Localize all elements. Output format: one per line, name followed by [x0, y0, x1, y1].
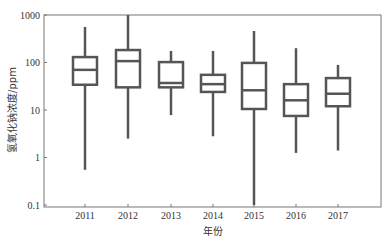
box-2015 — [242, 31, 266, 205]
box-series — [73, 15, 350, 205]
x-tick-label: 2014 — [203, 210, 223, 221]
box-2014 — [201, 51, 225, 136]
x-axis-title: 年份 — [203, 225, 223, 237]
x-tick-label: 2013 — [161, 210, 181, 221]
y-tick-label: 1 — [35, 152, 40, 163]
box-2016 — [284, 48, 308, 153]
y-tick-label: 1000 — [20, 10, 40, 21]
iqr-box — [242, 63, 266, 109]
x-tick-label: 2016 — [286, 210, 306, 221]
y-tick-label: 0.1 — [28, 200, 41, 211]
box-2012 — [116, 15, 140, 139]
boxplot-chart: 0.11101001000 20112012201320142015201620… — [0, 0, 392, 244]
box-2013 — [159, 51, 183, 115]
x-tick-label: 2011 — [75, 210, 95, 221]
iqr-box — [326, 78, 350, 106]
x-tick-label: 2017 — [328, 210, 348, 221]
box-2017 — [326, 65, 350, 151]
x-tick-label: 2012 — [118, 210, 138, 221]
iqr-box — [116, 50, 140, 87]
y-axis-title: 氢氧化钠浓度/ppm — [6, 67, 18, 153]
y-tick-label: 100 — [25, 57, 40, 68]
x-tick-label: 2015 — [244, 210, 264, 221]
box-2011 — [73, 27, 97, 170]
y-tick-label: 10 — [30, 105, 40, 116]
y-axis: 0.11101001000 — [20, 10, 47, 211]
